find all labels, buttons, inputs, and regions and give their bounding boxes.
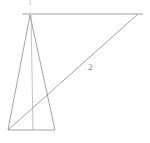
diagonal-guy-line: [8, 14, 138, 130]
figure-canvas: 2 1: [0, 0, 150, 143]
left-leg-line: [8, 15, 30, 130]
apex-label: 1: [28, 0, 32, 7]
right-leg-line: [30, 15, 55, 130]
diagonal-label: 2: [88, 63, 93, 72]
line-diagram: [0, 0, 150, 143]
center-post-line: [31, 15, 33, 130]
